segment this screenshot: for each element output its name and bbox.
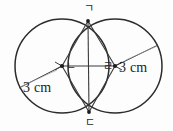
segment-digeut-rieul xyxy=(89,66,115,112)
right-radius-dimension-label: 3 cm xyxy=(119,61,147,75)
point-label-rieul: ㄹ xyxy=(103,61,113,72)
point-label-nieun: ㄴ xyxy=(66,61,76,72)
geometry-figure: ㄱ ㄴ ㄹ ㄷ 3 cm 3 cm xyxy=(0,0,173,131)
vertex-dot-rieul xyxy=(113,64,117,68)
point-label-digeut: ㄷ xyxy=(85,117,95,128)
left-radius-dimension-label: 3 cm xyxy=(23,81,51,95)
vertex-dot-digeut xyxy=(87,110,91,114)
segment-digeut-nieun xyxy=(62,66,89,112)
vertex-dot-giyeok xyxy=(86,19,90,23)
vertex-dot-nieun xyxy=(60,64,64,68)
point-label-giyeok: ㄱ xyxy=(84,3,94,14)
right-dimension-leader xyxy=(126,46,157,60)
